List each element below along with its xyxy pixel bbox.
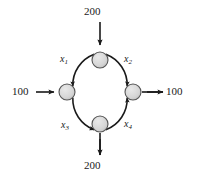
arc-label-x3-subscript: 3 [65, 124, 69, 132]
arc-label-x2: x2 [124, 54, 132, 64]
node-left [59, 84, 75, 100]
outflow-label-right: 100 [166, 86, 183, 97]
arc-label-x1: x1 [60, 54, 68, 64]
arc-label-x4-subscript: 4 [128, 123, 132, 131]
node-bottom [92, 116, 108, 132]
arc-label-x3: x3 [61, 120, 69, 130]
node-top [92, 52, 108, 68]
arc-x1 [73, 54, 94, 86]
inflow-label-top: 200 [84, 6, 101, 17]
arc-label-x2-subscript: 2 [128, 58, 132, 66]
outflow-label-bottom: 200 [84, 160, 101, 171]
arc-label-x1-subscript: 1 [64, 58, 68, 66]
arc-x3 [73, 98, 94, 130]
node-right [125, 84, 141, 100]
flow-diagram: 200 200 100 100 x1 x2 x3 x4 [0, 0, 197, 183]
inflow-label-left: 100 [12, 86, 29, 97]
arc-label-x4: x4 [124, 119, 132, 129]
